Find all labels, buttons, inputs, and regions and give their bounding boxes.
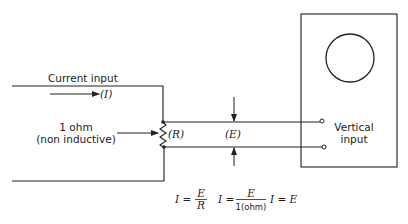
eq1-lhs: I = [174,193,191,205]
eq1-denominator: R [196,199,205,211]
current-input-label: Current input [48,72,118,84]
vertical-input-label-1: Vertical [334,121,373,133]
eq1-numerator: E [196,187,205,199]
eq2-denominator: 1(ohm) [236,202,267,212]
resistor-note-label: (non inductive) [36,133,116,145]
resistor-symbol: (R) [168,128,184,140]
equations: I = E R I = E 1(ohm) I = E [174,187,298,212]
terminal-top-icon [320,119,324,123]
vertical-input-label-2: input [340,133,367,145]
terminal-bottom-icon [322,145,326,149]
current-symbol: (I) [100,88,112,100]
resistor-value-label: 1 ohm [59,121,92,133]
input-wire-bottom [12,147,164,181]
eq2-numerator: E [246,187,255,199]
eq3: I = E [269,193,298,205]
voltage-symbol: (E) [225,128,241,140]
resistor-icon [160,122,166,147]
circuit-diagram: Current input (I) 1 ohm (non inductive) … [0,0,408,224]
input-wire-top [12,86,163,122]
oscilloscope-screen [326,34,374,82]
eq2-lhs: I = [217,193,234,205]
